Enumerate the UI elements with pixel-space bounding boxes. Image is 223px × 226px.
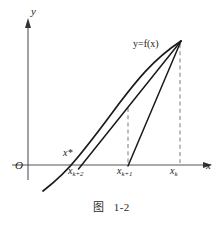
tick-label-x-k-plus-1: xk+1 bbox=[117, 166, 132, 178]
plot-canvas bbox=[0, 0, 223, 226]
figure-container: y x O y=f(x) x* xk+2 xk+1 xk 图1-2 bbox=[0, 0, 223, 226]
tangent-line-at-xk1 bbox=[79, 41, 182, 169]
curve-label: y=f(x) bbox=[133, 39, 159, 49]
origin-label: O bbox=[15, 160, 23, 171]
figure-caption-number: 1-2 bbox=[114, 201, 130, 213]
tangent-line-at-xk bbox=[128, 41, 181, 166]
x-axis-label: x bbox=[206, 160, 211, 171]
root-label-x-star: x* bbox=[63, 148, 72, 158]
y-axis-label: y bbox=[31, 6, 36, 17]
y-axis bbox=[25, 18, 31, 180]
tick-label-x-k-plus-2: xk+2 bbox=[68, 166, 83, 178]
tick-label-x-k-plus-2-sub: k+2 bbox=[72, 170, 83, 177]
tick-label-x-k: xk bbox=[170, 166, 177, 178]
function-curve bbox=[43, 41, 181, 191]
figure-caption: 图1-2 bbox=[0, 198, 223, 214]
figure-caption-label: 图 bbox=[93, 201, 105, 213]
tick-label-x-k-sub: k bbox=[174, 170, 177, 177]
x-axis bbox=[12, 162, 212, 168]
tick-label-x-k-plus-1-sub: k+1 bbox=[121, 170, 132, 177]
